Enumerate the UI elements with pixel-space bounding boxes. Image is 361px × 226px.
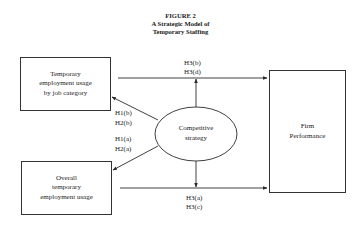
node-strategy-line-2: strategy <box>159 134 233 144</box>
label-h3a: H3(a) <box>186 194 202 202</box>
node-overall-line-1: Overall <box>40 174 93 183</box>
node-job-category-line-2: employment usage <box>39 79 92 88</box>
node-overall-usage: Overall temporary employment usage <box>21 161 112 215</box>
node-job-category-usage: Temporary employment usage by job catego… <box>20 57 111 111</box>
label-h1b: H1(b) <box>115 109 132 117</box>
node-overall-line-3: employment usage <box>40 193 93 202</box>
node-firm-performance: Firm Performance <box>269 70 346 193</box>
node-job-category-line-1: Temporary <box>39 70 92 79</box>
node-performance-line-1: Firm <box>290 122 326 131</box>
node-competitive-strategy: Competitive strategy <box>159 124 233 143</box>
label-h3d: H3(d) <box>184 68 201 76</box>
node-overall-line-2: temporary <box>40 183 93 192</box>
node-strategy-line-1: Competitive <box>159 124 233 134</box>
label-h2a: H2(a) <box>115 145 131 153</box>
label-h3b: H3(b) <box>184 59 201 67</box>
node-job-category-line-3: by job category <box>39 89 92 98</box>
label-h1a: H1(a) <box>115 135 131 143</box>
label-h2b: H2(b) <box>115 119 132 127</box>
label-h3c: H3(c) <box>186 203 202 211</box>
node-performance-line-2: Performance <box>290 132 326 141</box>
